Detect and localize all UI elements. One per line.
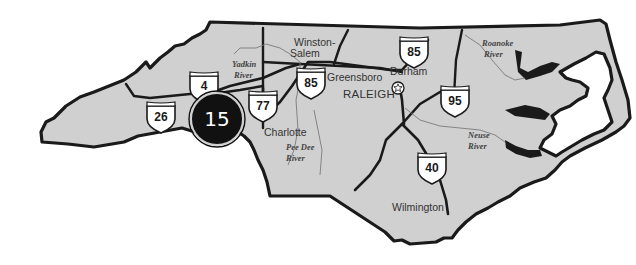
interstate-number: 85 <box>304 76 318 90</box>
interstate-number: 85 <box>407 45 421 59</box>
city-label-durham: Durham <box>390 65 428 77</box>
river-label-roanoke-2: River <box>483 49 504 59</box>
river-label-pee-dee: Pee Dee <box>286 142 315 152</box>
city-label-wilmington: Wilmington <box>392 201 444 213</box>
city-label-raleigh: RALEIGH <box>343 88 395 100</box>
river-label-yadkin: Yadkin <box>232 59 257 69</box>
map-cluster-marker[interactable]: 15 <box>189 91 245 147</box>
river-label-neuse: Neuse <box>467 130 490 140</box>
city-label-winston-salem-2: Salem <box>290 47 320 59</box>
river-label-neuse-2: River <box>467 141 488 151</box>
north-carolina-map: Winston- Salem Greensboro Durham RALEIGH… <box>0 0 636 265</box>
interstate-number: 95 <box>448 94 462 108</box>
river-label-pee-dee-2: River <box>285 153 306 163</box>
city-label-greensboro: Greensboro <box>327 71 383 83</box>
star-in-circle-icon <box>392 82 404 94</box>
city-label-charlotte: Charlotte <box>264 126 307 138</box>
interstate-number: 26 <box>154 110 168 124</box>
interstate-number: 4 <box>201 79 208 93</box>
interstate-number: 77 <box>256 99 270 113</box>
marker-count: 15 <box>204 107 229 131</box>
state-outline <box>41 20 630 244</box>
interstate-number: 40 <box>425 161 439 175</box>
river-label-yadkin-2: River <box>233 70 254 80</box>
river-label-roanoke: Roanoke <box>481 38 513 48</box>
